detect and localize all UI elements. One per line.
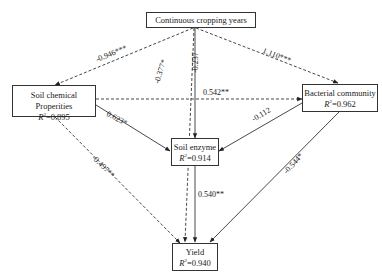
edge-label-scp-bac: 0.542** (203, 88, 229, 97)
node-bacterial-community: Bacterial community R2=0.962 (302, 84, 378, 112)
node-label: Continuous cropping years (155, 15, 247, 25)
node-yield: Yield R2=0.940 (172, 243, 218, 271)
edge-ccy-scp (55, 28, 193, 85)
r2-value: R2=0.962 (303, 99, 377, 110)
r2-value: R2=0.914 (172, 153, 218, 164)
node-label: Soil chemical Properities (13, 90, 95, 112)
node-soil-enzyme: Soil enzyme R2=0.914 (171, 138, 219, 166)
node-soil-chemical-properties: Soil chemical Properities R2=0.895 (12, 85, 96, 117)
node-continuous-cropping-years: Continuous cropping years (146, 12, 256, 28)
edge-bac-yld (210, 112, 339, 242)
edge-label-ccy-enz: -0.237 (191, 52, 200, 73)
edge-scp-yld (55, 117, 180, 243)
node-label: Yield (173, 247, 217, 258)
r2-value: R2=0.895 (13, 112, 95, 123)
node-label: Bacterial community (303, 88, 377, 99)
edge-label-enz-yld: 0.540** (198, 190, 224, 199)
r2-value: R2=0.940 (173, 258, 217, 269)
node-label: Soil enzyme (172, 142, 218, 153)
